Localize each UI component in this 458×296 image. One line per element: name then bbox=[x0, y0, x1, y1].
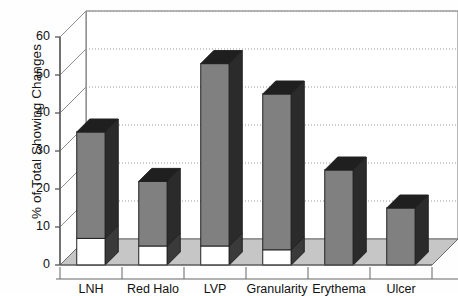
bar-ulcer bbox=[387, 195, 429, 265]
y-tick-0: 0 bbox=[24, 257, 50, 271]
x-tick-red-halo: Red Halo bbox=[122, 282, 184, 296]
x-tick-granularity: Granularity bbox=[246, 282, 308, 296]
y-tick-10: 10 bbox=[24, 219, 50, 233]
bar-lnh bbox=[77, 119, 119, 265]
bar-lvp bbox=[201, 51, 243, 265]
x-tick-erythema: Erythema bbox=[308, 282, 370, 296]
x-tick-ulcer: Ulcer bbox=[370, 282, 432, 296]
y-tick-20: 20 bbox=[24, 181, 50, 195]
y-tick-40: 40 bbox=[24, 105, 50, 119]
y-tick-60: 60 bbox=[24, 29, 50, 43]
bar-red-halo bbox=[139, 168, 181, 265]
bar-erythema bbox=[325, 157, 367, 265]
bar-granularity bbox=[263, 81, 305, 265]
y-tick-30: 30 bbox=[24, 143, 50, 157]
x-tick-lnh: LNH bbox=[60, 282, 122, 296]
y-tick-50: 50 bbox=[24, 67, 50, 81]
x-tick-lvp: LVP bbox=[184, 282, 246, 296]
